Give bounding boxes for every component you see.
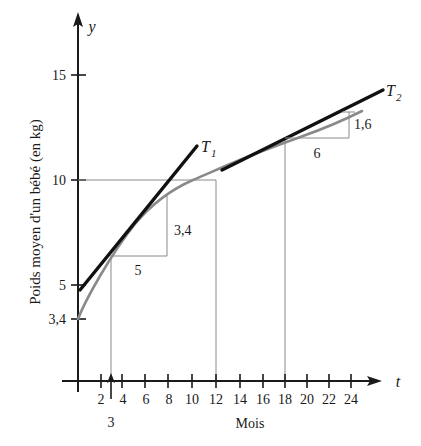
- y-axis-variable-label: y: [86, 18, 96, 36]
- slope-rise-label-t1: 3,4: [174, 223, 192, 238]
- x-tick-label-20: 20: [300, 392, 314, 407]
- slope-rise-label-t2: 1,6: [354, 117, 372, 132]
- x-tick-label-12: 12: [209, 392, 223, 407]
- tangent-label-t2-letter: T: [386, 82, 396, 99]
- y-tick-label-15: 15: [52, 68, 66, 83]
- x-tick-label-22: 22: [322, 392, 336, 407]
- tangent-label-t1-subscript: 1: [211, 147, 217, 159]
- x-tick-label-16: 16: [256, 392, 270, 407]
- slope-run-label-t1: 5: [135, 263, 142, 278]
- x-tick-label-24: 24: [344, 392, 358, 407]
- x-tick-label-8: 8: [166, 392, 173, 407]
- tangent-label-t2: T 2: [386, 82, 402, 103]
- y-tick-label-3-4: 3,4: [49, 312, 67, 327]
- chart-figure: 15 10 5 3,4 2 4 6 8 10 12 14 16 18 20 22…: [0, 0, 421, 446]
- chart-svg: 15 10 5 3,4 2 4 6 8 10 12 14 16 18 20 22…: [0, 0, 421, 446]
- x-axis-variable-label: t: [396, 373, 401, 390]
- x-tick-label-10: 10: [185, 392, 199, 407]
- y-tick-label-10: 10: [52, 173, 66, 188]
- growth-curve: [78, 111, 362, 319]
- y-tick-label-5: 5: [59, 278, 66, 293]
- slope-run-label-t2: 6: [314, 146, 321, 161]
- x-tick-label-14: 14: [233, 392, 247, 407]
- x-tick-label-4: 4: [120, 392, 127, 407]
- tangent-label-t1: T 1: [201, 138, 217, 159]
- tangent-label-t2-subscript: 2: [396, 91, 402, 103]
- month-3-label: 3: [108, 415, 115, 430]
- month-3-marker: [107, 373, 115, 399]
- x-tick-label-2: 2: [98, 392, 105, 407]
- axis-group: [62, 12, 382, 392]
- x-axis-title: Mois: [236, 416, 265, 431]
- tangent-label-t1-letter: T: [201, 138, 211, 155]
- y-axis-title: Poids moyen d'un bébé (en kg): [27, 119, 44, 305]
- x-tick-label-6: 6: [143, 392, 150, 407]
- x-tick-label-18: 18: [278, 392, 292, 407]
